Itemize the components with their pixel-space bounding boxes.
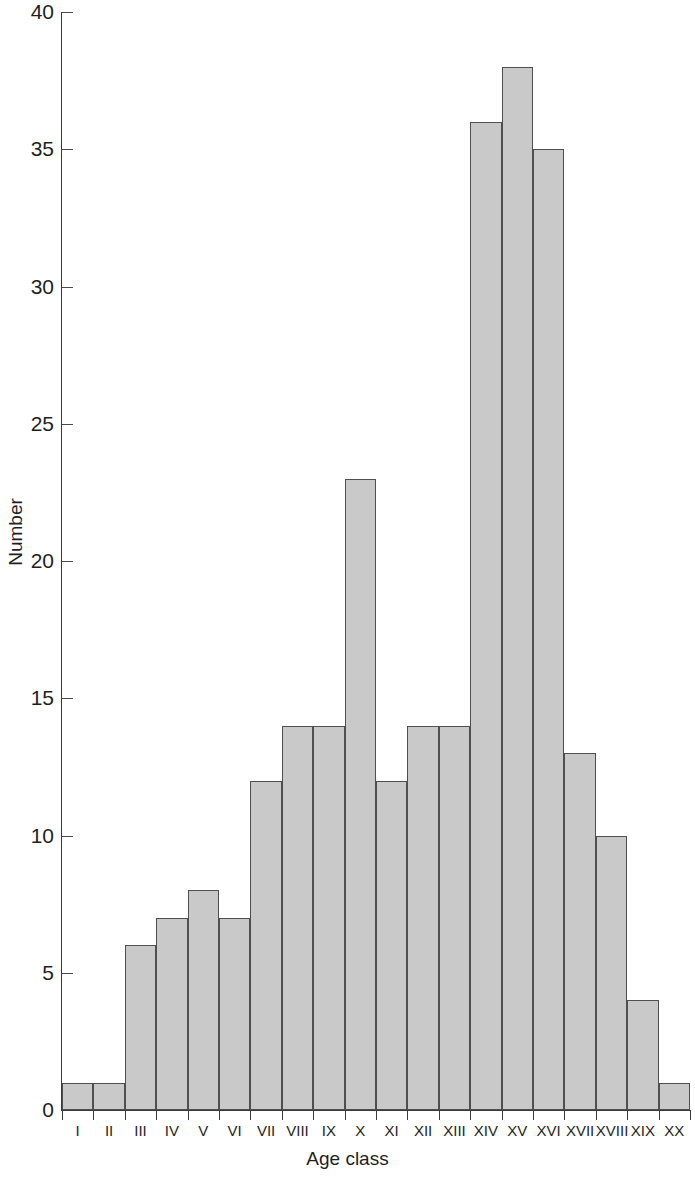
bar-XV (502, 67, 533, 1110)
x-axis-title: Age class (0, 1148, 695, 1170)
x-tick-mark (659, 1110, 660, 1120)
bar-XVI (533, 149, 564, 1110)
bar-column (376, 12, 407, 1110)
bar-IX (313, 726, 344, 1110)
bar-column (125, 12, 156, 1110)
x-tick-label-VIII: VIII (282, 1120, 313, 1142)
x-tick-label-VI: VI (219, 1120, 250, 1142)
x-tick-label-XVI: XVI (533, 1120, 564, 1142)
y-tick-label: 15 (0, 685, 54, 711)
x-tick-mark (313, 1110, 314, 1120)
bar-column (62, 12, 93, 1110)
x-tick-label-IX: IX (313, 1120, 344, 1142)
bar-XVIII (596, 836, 627, 1111)
bar-XIV (470, 122, 501, 1110)
bar-XVII (564, 753, 595, 1110)
x-tick-mark (596, 1110, 597, 1120)
x-tick-label-III: III (125, 1120, 156, 1142)
bar-column (627, 12, 658, 1110)
bar-XIII (439, 726, 470, 1110)
bar-column (282, 12, 313, 1110)
x-tick-label-XVIII: XVIII (596, 1120, 627, 1142)
x-tick-mark (690, 1110, 691, 1120)
x-tick-label-IV: IV (156, 1120, 187, 1142)
x-tick-label-XIX: XIX (627, 1120, 658, 1142)
bar-column (156, 12, 187, 1110)
x-tick-mark (627, 1110, 628, 1120)
bar-column (502, 12, 533, 1110)
x-tick-label-XII: XII (407, 1120, 438, 1142)
y-tick-label: 5 (0, 960, 54, 986)
bar-I (62, 1083, 93, 1110)
bar-column (439, 12, 470, 1110)
x-tick-mark (407, 1110, 408, 1120)
x-tick-label-VII: VII (250, 1120, 281, 1142)
y-tick-label: 10 (0, 823, 54, 849)
x-tick-label-XIII: XIII (439, 1120, 470, 1142)
x-tick-mark (219, 1110, 220, 1120)
x-tick-mark (93, 1110, 94, 1120)
x-tick-mark (188, 1110, 189, 1120)
bar-VIII (282, 726, 313, 1110)
bar-column (407, 12, 438, 1110)
y-tick-label: 25 (0, 411, 54, 437)
x-tick-mark (470, 1110, 471, 1120)
bar-VII (250, 781, 281, 1110)
bar-column (470, 12, 501, 1110)
x-tick-mark (564, 1110, 565, 1120)
bar-column (533, 12, 564, 1110)
x-tick-label-I: I (62, 1120, 93, 1142)
bar-X (345, 479, 376, 1110)
x-tick-mark (345, 1110, 346, 1120)
x-tick-label-XX: XX (659, 1120, 690, 1142)
y-tick-label: 0 (0, 1097, 54, 1123)
x-tick-mark (62, 1110, 63, 1120)
x-tick-mark (533, 1110, 534, 1120)
plot-area (62, 12, 690, 1110)
x-tick-mark (502, 1110, 503, 1120)
bar-column (345, 12, 376, 1110)
x-tick-mark (282, 1110, 283, 1120)
x-tick-label-XV: XV (502, 1120, 533, 1142)
bar-column (596, 12, 627, 1110)
x-tick-label-X: X (345, 1120, 376, 1142)
bar-XI (376, 781, 407, 1110)
y-tick-label: 40 (0, 0, 54, 25)
x-tick-mark (156, 1110, 157, 1120)
bar-column (93, 12, 124, 1110)
y-tick-label: 20 (0, 548, 54, 574)
y-tick-label: 35 (0, 136, 54, 162)
x-tick-mark (376, 1110, 377, 1120)
bar-III (125, 945, 156, 1110)
bar-XX (659, 1083, 690, 1110)
x-tick-mark (250, 1110, 251, 1120)
bar-XIX (627, 1000, 658, 1110)
bar-chart-figure: Number 0510152025303540 IIIIIIIVVVIVIIVI… (0, 0, 695, 1180)
x-tick-label-XI: XI (376, 1120, 407, 1142)
bar-column (564, 12, 595, 1110)
bar-IV (156, 918, 187, 1110)
bar-XII (407, 726, 438, 1110)
bar-column (188, 12, 219, 1110)
x-tick-label-XVII: XVII (564, 1120, 595, 1142)
x-tick-mark (125, 1110, 126, 1120)
x-tick-label-V: V (188, 1120, 219, 1142)
x-tick-label-XIV: XIV (470, 1120, 501, 1142)
bar-column (250, 12, 281, 1110)
bar-column (659, 12, 690, 1110)
bar-column (313, 12, 344, 1110)
x-tick-mark (439, 1110, 440, 1120)
bar-II (93, 1083, 124, 1110)
y-tick-label: 30 (0, 274, 54, 300)
bar-V (188, 890, 219, 1110)
bar-VI (219, 918, 250, 1110)
x-tick-label-II: II (93, 1120, 124, 1142)
bar-column (219, 12, 250, 1110)
